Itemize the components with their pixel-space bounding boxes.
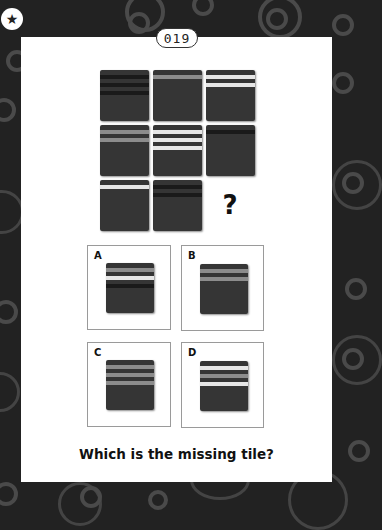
- stripe-gray: [153, 75, 202, 79]
- grid-tile-r1c2: [153, 70, 202, 121]
- stripe-gray: [106, 381, 154, 385]
- stripe-gray: [106, 268, 154, 272]
- swirl-decoration: [266, 8, 288, 30]
- stripe-black: [100, 91, 149, 95]
- option-label: A: [94, 250, 102, 261]
- option-b-tile: [200, 264, 248, 314]
- option-c-tile: [106, 360, 154, 410]
- stripe-white: [153, 138, 202, 142]
- swirl-decoration: [148, 490, 168, 510]
- grid-tile-r2c3: [206, 125, 255, 176]
- stripe-black: [100, 83, 149, 87]
- question-text: Which is the missing tile?: [21, 446, 332, 462]
- swirl-decoration: [0, 482, 18, 506]
- stripe-gray: [106, 373, 154, 377]
- option-a[interactable]: A: [87, 245, 171, 330]
- stripe-white: [153, 130, 202, 134]
- stripe-gray: [200, 277, 248, 281]
- star-icon: ★: [1, 8, 23, 30]
- stripe-white: [206, 75, 255, 79]
- option-c[interactable]: C: [87, 342, 171, 427]
- stripe-white: [153, 146, 202, 150]
- option-label: B: [188, 250, 196, 261]
- stripe-black: [206, 130, 255, 134]
- swirl-decoration: [348, 440, 370, 462]
- swirl-decoration: [0, 372, 20, 412]
- swirl-decoration: [0, 98, 16, 122]
- stripe-white: [100, 185, 149, 189]
- stripe-black: [100, 75, 149, 79]
- option-d-tile: [200, 361, 248, 411]
- stripe-gray: [106, 365, 154, 369]
- grid-tile-r3c2: [153, 180, 202, 231]
- stripe-gray: [200, 374, 248, 378]
- page-number: 019: [156, 28, 198, 48]
- option-b[interactable]: B: [181, 245, 264, 331]
- stripe-white: [106, 276, 154, 280]
- grid-tile-r2c1: [100, 125, 149, 176]
- stripe-black: [106, 284, 154, 288]
- stripe-white: [200, 382, 248, 386]
- stripe-white: [206, 83, 255, 87]
- missing-tile-question-mark: ?: [219, 190, 241, 220]
- stripe-white: [200, 366, 248, 370]
- swirl-decoration: [332, 14, 354, 36]
- swirl-decoration: [332, 72, 354, 94]
- option-a-tile: [106, 263, 154, 313]
- swirl-decoration: [342, 172, 364, 194]
- option-label: C: [94, 347, 101, 358]
- stripe-gray: [100, 138, 149, 142]
- swirl-decoration: [342, 348, 364, 370]
- option-d[interactable]: D: [181, 342, 264, 428]
- stripe-gray: [100, 130, 149, 134]
- swirl-decoration: [80, 486, 102, 508]
- grid-tile-r1c3: [206, 70, 255, 121]
- stripe-black: [153, 193, 202, 197]
- swirl-decoration: [128, 12, 150, 34]
- swirl-decoration: [192, 0, 214, 16]
- stripe-gray: [200, 269, 248, 273]
- grid-tile-r3c1: [100, 180, 149, 231]
- stripe-black: [153, 185, 202, 189]
- swirl-decoration: [345, 278, 367, 300]
- grid-tile-r2c2: [153, 125, 202, 176]
- grid-tile-r1c1: [100, 70, 149, 121]
- option-label: D: [188, 347, 196, 358]
- swirl-decoration: [0, 300, 18, 324]
